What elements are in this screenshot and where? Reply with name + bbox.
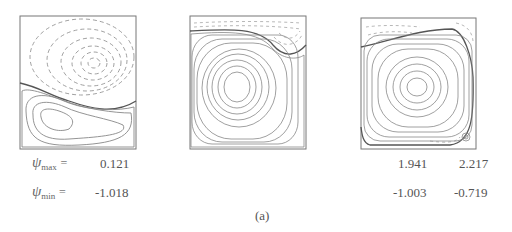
min-subscript: min	[41, 191, 55, 201]
panel-3a-psi-max: 1.941	[398, 157, 427, 170]
panel-1-psi-min: -1.018	[95, 186, 129, 199]
streamline-plot-2	[189, 15, 308, 151]
panel-1-psi-max: 0.121	[100, 157, 129, 170]
figure-caption: (a)	[255, 209, 269, 222]
panel-3a-psi-min: -1.003	[393, 186, 427, 199]
psi-min-label: ψmin =	[32, 184, 66, 201]
panel-3b-psi-max: 2.217	[459, 157, 488, 170]
streamline-panel-2	[189, 15, 308, 151]
panel-3b-psi-min: -0.719	[454, 186, 488, 199]
streamline-panel-1	[19, 15, 138, 151]
psi-symbol: ψ	[32, 183, 41, 199]
streamline-plot-1	[19, 15, 138, 151]
streamline-plot-3	[360, 17, 478, 151]
max-subscript: max	[41, 162, 57, 172]
equals-sign: =	[59, 185, 66, 199]
streamline-panel-3	[360, 17, 478, 151]
psi-max-label: ψmax =	[32, 155, 67, 172]
equals-sign: =	[61, 156, 68, 170]
psi-symbol: ψ	[32, 154, 41, 170]
